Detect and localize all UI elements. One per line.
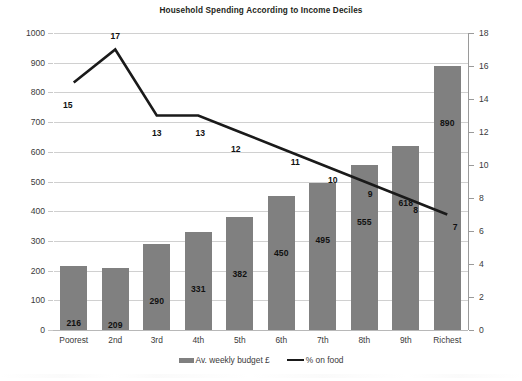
right-axis-tick-label: 2 (479, 293, 484, 302)
line-value-label: 15 (54, 101, 82, 110)
line-value-label: 17 (101, 32, 129, 41)
page-scan-artifact (0, 374, 522, 378)
line-series-layer (53, 33, 468, 330)
chart-legend: Av. weekly budget £ % on food (0, 355, 522, 365)
right-axis-tick-mark (469, 132, 474, 133)
line-value-label: 9 (356, 190, 384, 199)
right-axis-tick-label: 6 (479, 227, 484, 236)
left-axis-tick-label: 0 (3, 326, 45, 335)
left-axis-tick-label: 900 (3, 59, 45, 68)
line-value-label: 8 (402, 206, 430, 215)
right-axis-tick-mark (469, 330, 474, 331)
line-value-label: 13 (186, 129, 214, 138)
left-axis-tick-mark (48, 330, 53, 331)
line-value-label: 12 (222, 145, 250, 154)
right-axis-tick-mark (469, 198, 474, 199)
right-axis-tick-mark (469, 66, 474, 67)
left-axis-tick-label: 800 (3, 88, 45, 97)
line-swatch-icon (287, 359, 304, 362)
right-axis-line (468, 33, 469, 330)
line-value-label: 11 (281, 158, 309, 167)
left-axis-tick-label: 500 (3, 178, 45, 187)
left-axis-tick-label: 200 (3, 267, 45, 276)
right-axis-tick-mark (469, 165, 474, 166)
left-axis-tick-label: 700 (3, 118, 45, 127)
legend-item-line: % on food (287, 355, 344, 365)
right-axis-tick-mark (469, 99, 474, 100)
left-axis-tick-label: 400 (3, 207, 45, 216)
category-label: Richest (421, 336, 473, 344)
left-axis-tick-label: 600 (3, 148, 45, 157)
chart-title: Household Spending According to Income D… (0, 6, 522, 15)
right-axis-tick-label: 10 (479, 161, 489, 170)
legend-label-bar: Av. weekly budget £ (196, 355, 270, 365)
right-axis-tick-label: 14 (479, 95, 489, 104)
legend-label-line: % on food (306, 355, 344, 365)
right-axis-tick-label: 18 (479, 29, 489, 38)
right-axis-tick-label: 16 (479, 62, 489, 71)
left-axis-tick-label: 100 (3, 296, 45, 305)
line-value-label: 7 (441, 223, 469, 232)
right-axis-tick-mark (469, 297, 474, 298)
legend-item-bar: Av. weekly budget £ (179, 355, 270, 365)
line-series-path (74, 50, 448, 215)
right-axis-tick-mark (469, 231, 474, 232)
line-value-label: 10 (319, 176, 347, 185)
chart-container: Household Spending According to Income D… (0, 0, 522, 381)
right-axis-tick-mark (469, 264, 474, 265)
bar-swatch-icon (179, 358, 194, 363)
line-value-label: 13 (143, 129, 171, 138)
gridline (53, 330, 468, 331)
right-axis-tick-label: 12 (479, 128, 489, 137)
right-axis-tick-label: 0 (479, 326, 484, 335)
right-axis-tick-label: 4 (479, 260, 484, 269)
right-axis-tick-mark (469, 33, 474, 34)
left-axis-tick-label: 300 (3, 237, 45, 246)
left-axis-tick-label: 1000 (3, 29, 45, 38)
right-axis-tick-label: 8 (479, 194, 484, 203)
